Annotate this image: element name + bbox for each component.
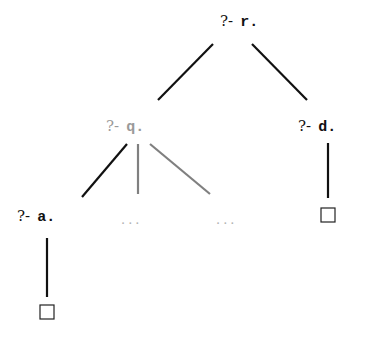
tree-nodes: ?-r.?-q.?-d.?-a. bbox=[17, 12, 336, 226]
goal-atom: q. bbox=[126, 119, 144, 136]
empty-clause-box-icon bbox=[321, 208, 335, 222]
query-prefix: ?- bbox=[17, 207, 30, 225]
goal-node-d: ?-d. bbox=[298, 117, 336, 136]
tree-ellipses: ...... bbox=[121, 212, 237, 227]
goal-atom: r. bbox=[240, 14, 258, 31]
goal-atom: a. bbox=[37, 209, 55, 226]
empty-clause-boxes bbox=[40, 208, 335, 319]
query-prefix: ?- bbox=[298, 117, 311, 135]
query-prefix: ?- bbox=[106, 117, 119, 135]
sld-tree-diagram: ?-r.?-q.?-d.?-a. ...... bbox=[0, 0, 365, 340]
ellipsis-dots2: ... bbox=[216, 212, 237, 227]
edge-q-to-dots2 bbox=[150, 144, 210, 194]
goal-node-a: ?-a. bbox=[17, 207, 55, 226]
empty-clause-box-icon bbox=[40, 305, 54, 319]
edge-r-to-q bbox=[158, 44, 213, 100]
edge-r-to-d bbox=[252, 44, 307, 100]
ellipsis-dots1: ... bbox=[121, 212, 142, 227]
goal-node-r: ?-r. bbox=[220, 12, 258, 31]
tree-edges bbox=[47, 44, 328, 297]
edge-q-to-a bbox=[82, 144, 127, 197]
goal-node-q: ?-q. bbox=[106, 117, 144, 136]
goal-atom: d. bbox=[318, 119, 336, 136]
query-prefix: ?- bbox=[220, 12, 233, 30]
